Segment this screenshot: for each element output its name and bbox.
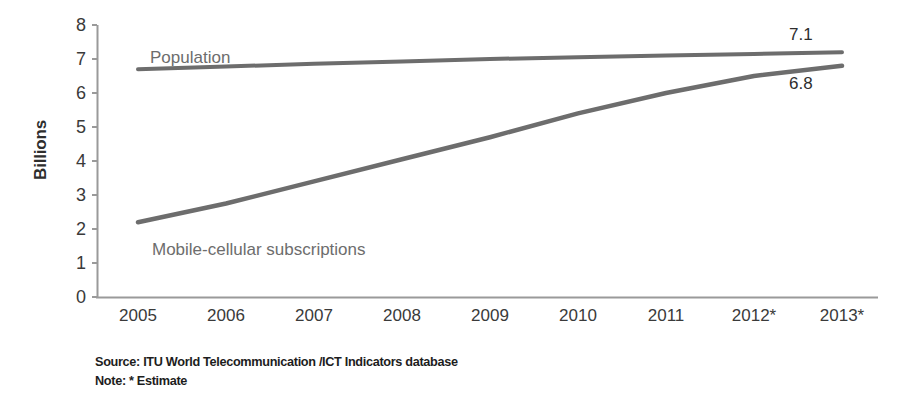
y-tick-label-3: 3 — [60, 186, 86, 204]
y-tick-label-6: 6 — [60, 84, 86, 102]
y-axis-title: Billions — [31, 95, 51, 205]
series-line-mobile-cellular — [138, 66, 842, 222]
y-tick-label-1: 1 — [60, 254, 86, 272]
y-tick-label-8: 8 — [60, 16, 86, 34]
x-tick-label-2012: 2012* — [709, 306, 799, 326]
series-line-population — [138, 52, 842, 69]
y-tick-label-2: 2 — [60, 220, 86, 238]
series-label-population: Population — [150, 48, 230, 68]
value-label-mobile-cellular: 6.8 — [789, 74, 813, 94]
y-tick-label-5: 5 — [60, 118, 86, 136]
footer-source: Source: ITU World Telecommunication /ICT… — [95, 352, 809, 371]
y-tick-label-7: 7 — [60, 50, 86, 68]
chart-plot-area: Billions 8 7 6 5 4 3 2 1 0 2005 2006 200… — [0, 0, 911, 340]
footer-note: Note: * Estimate — [95, 371, 809, 390]
series-label-mobile-cellular: Mobile-cellular subscriptions — [152, 240, 366, 260]
line-chart-svg — [0, 0, 911, 340]
x-tick-label-2007: 2007 — [269, 306, 359, 326]
y-tick-label-4: 4 — [60, 152, 86, 170]
x-tick-label-2011: 2011 — [621, 306, 711, 326]
x-tick-label-2005: 2005 — [93, 306, 183, 326]
x-tick-label-2013: 2013* — [797, 306, 887, 326]
chart-figure: Billions 8 7 6 5 4 3 2 1 0 2005 2006 200… — [0, 0, 911, 414]
chart-footer: Source: ITU World Telecommunication /ICT… — [95, 352, 855, 390]
x-tick-label-2008: 2008 — [357, 306, 447, 326]
x-tick-label-2006: 2006 — [181, 306, 271, 326]
y-tick-label-0: 0 — [60, 288, 86, 306]
x-tick-label-2009: 2009 — [445, 306, 535, 326]
value-label-population: 7.1 — [789, 25, 813, 45]
y-axis-ticks — [92, 25, 97, 297]
x-tick-label-2010: 2010 — [533, 306, 623, 326]
